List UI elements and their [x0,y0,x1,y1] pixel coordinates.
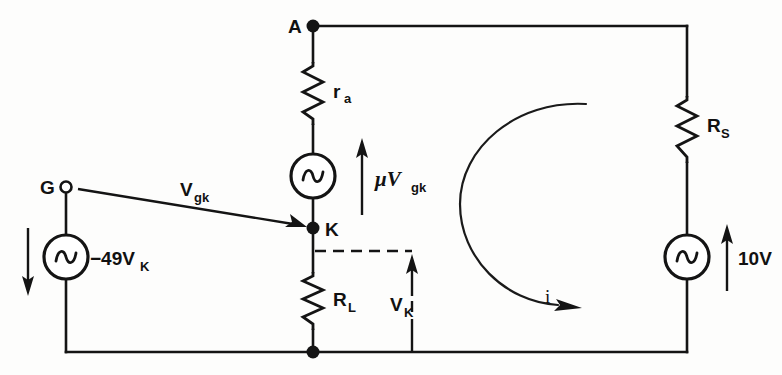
resistor-rl-label: R [333,289,347,310]
resistor-rs-zigzag [677,96,697,163]
ac-source-dependent [291,154,335,198]
ac-source-grid: −49V K [44,235,150,279]
resistor-rl-subscript: L [348,300,356,315]
annotation-tenv: 10V [721,224,772,291]
annotation-vk-label: V [390,294,403,315]
annotation-loop-current: i [460,104,586,311]
annotation-vgk-label: V [180,179,193,200]
resistor-ra-subscript: a [344,91,352,106]
resistor-rl-zigzag [303,272,323,330]
annotation-muvgk-label: μV [374,167,403,191]
annotation-muvgk: μV gk [356,138,427,215]
annotation-loop-current-label: i [545,286,550,307]
node-ground-dot [307,346,320,359]
resistor-rs-label: R [707,115,721,136]
resistor-ra-label: r [333,81,341,102]
annotation-grid-arrow [22,228,34,296]
node-k-dot [307,222,320,235]
ac-source-signal [665,235,709,279]
node-k-label: K [325,219,339,240]
resistor-ra-zigzag [303,62,323,125]
resistor-rl: R L [303,272,356,330]
annotation-tenv-label: 10V [738,248,772,269]
node-a-dot [307,20,320,33]
resistor-rs: R S [677,96,730,163]
annotation-loop-current-arc [460,104,586,305]
node-g-terminal [61,182,72,193]
node-g-label: G [40,177,55,198]
annotation-vgk-subscript: gk [194,190,210,205]
ac-source-grid-subscript: K [140,259,150,274]
circuit-schematic: r a R L R S μV gk [0,0,782,375]
annotation-muvgk-subscript: gk [411,180,427,195]
resistor-ra: r a [303,62,352,125]
node-a-label: A [288,16,302,37]
resistor-rs-subscript: S [721,126,730,141]
annotation-vgk-arrowhead [285,214,307,227]
annotation-vgk: V gk [78,179,307,227]
annotation-vk-subscript: K [404,305,414,320]
annotation-vk: V K [315,251,418,351]
diagram-canvas: r a R L R S μV gk [0,0,782,375]
ac-source-grid-label: −49V [90,248,135,269]
